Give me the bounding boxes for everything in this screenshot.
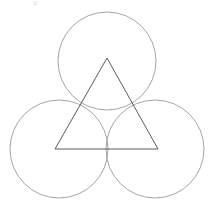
- canvas-background: [0, 0, 212, 208]
- geometry-diagram: [0, 0, 212, 208]
- figure-canvas: [0, 0, 212, 208]
